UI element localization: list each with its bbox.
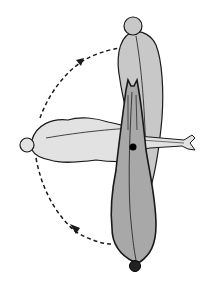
- rotation-diagram: [0, 0, 213, 289]
- upper-arrow-path: [40, 48, 120, 118]
- upright-body-tail-knob: [124, 17, 142, 35]
- horizontal-body-tail-knob: [20, 138, 34, 152]
- lower-arrowhead-icon: [70, 224, 80, 234]
- front-body-marker-dot: [130, 144, 137, 151]
- front-body-tail-knob: [130, 261, 141, 272]
- lower-arrow-path: [36, 158, 112, 244]
- lower-rotation-arrow: [36, 158, 112, 244]
- horizontal-body: [20, 118, 195, 162]
- upper-rotation-arrow: [40, 48, 120, 118]
